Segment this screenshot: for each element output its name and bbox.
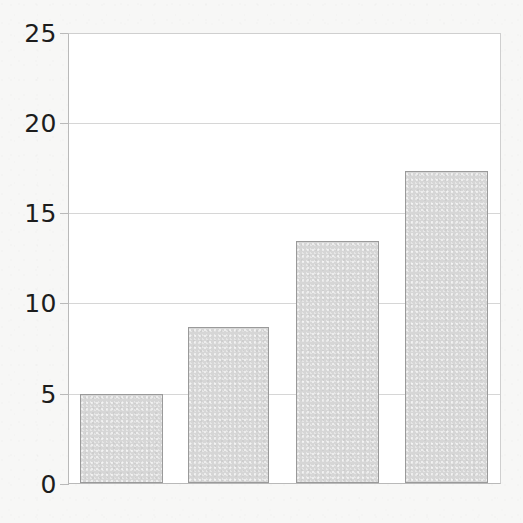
y-tick-label-10: 10 [24, 291, 57, 316]
y-tick-label-5: 5 [41, 382, 57, 407]
y-tick-label-0: 0 [41, 472, 57, 497]
bar-2[interactable] [188, 327, 269, 483]
y-tick-label-20: 20 [24, 111, 57, 136]
bar-chart-figure: 25 20 15 10 5 0 [0, 0, 523, 523]
bar-4[interactable] [405, 171, 488, 484]
y-tick-label-15: 15 [24, 201, 57, 226]
y-tick-label-25: 25 [24, 21, 57, 46]
chart-page: 25 20 15 10 5 0 [0, 0, 523, 523]
bar-1[interactable] [80, 394, 163, 483]
bars-layer [69, 34, 500, 483]
bar-3[interactable] [296, 241, 379, 483]
y-tick-mark-0 [60, 484, 69, 485]
plot-area [68, 33, 501, 484]
